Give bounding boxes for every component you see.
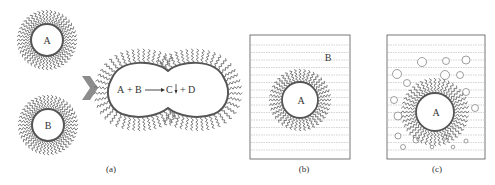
- plus-sign-1: +: [127, 84, 133, 95]
- panel-b-core-label: A: [297, 95, 305, 106]
- panel-b-medium-label: B: [325, 52, 332, 63]
- caption-c: (c): [432, 164, 442, 174]
- micelle-a-label: A: [43, 35, 51, 46]
- plus-sign-2: +: [180, 84, 186, 95]
- panel-c-core-label: A: [432, 107, 440, 118]
- reactant-b: B: [135, 84, 142, 95]
- product-c: C: [166, 84, 173, 95]
- panel-c: A: [387, 35, 485, 159]
- reactant-a: A: [117, 84, 125, 95]
- panel-b: A B: [250, 35, 350, 159]
- caption-a: (a): [106, 164, 116, 174]
- caption-b: (b): [299, 164, 310, 174]
- product-d: D: [188, 84, 195, 95]
- chevron-arrow-icon: [82, 76, 98, 100]
- micelle-diagram: A B A + B C + D (a) A B (b) A (c): [0, 0, 495, 185]
- micelle-b-label: B: [45, 120, 52, 131]
